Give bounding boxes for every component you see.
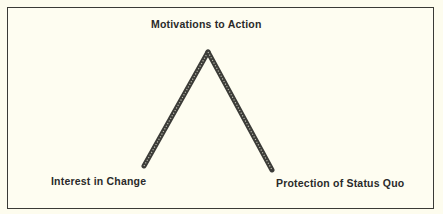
- left-branch-line: [144, 52, 208, 166]
- left-base-label: Interest in Change: [51, 175, 146, 187]
- right-branch-line: [208, 52, 272, 170]
- apex-label: Motivations to Action: [151, 18, 262, 30]
- right-base-label: Protection of Status Quo: [276, 177, 404, 189]
